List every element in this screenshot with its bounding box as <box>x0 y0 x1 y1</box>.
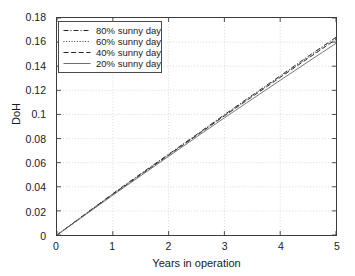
legend-item-label: 60% sunny day <box>96 36 161 47</box>
y-tick-label: 0.1 <box>0 109 51 119</box>
legend-item[interactable]: 20% sunny day <box>62 58 157 69</box>
x-tick-label: 3 <box>210 241 240 251</box>
legend-line-sample <box>62 25 92 36</box>
y-tick-label: 0.08 <box>0 134 51 144</box>
x-tick-label: 5 <box>322 241 352 251</box>
x-axis-label: Years in operation <box>56 257 337 269</box>
legend-item-label: 40% sunny day <box>96 47 161 58</box>
legend-item-label: 20% sunny day <box>96 58 161 69</box>
y-tick-label: 0.02 <box>0 207 51 217</box>
legend-item[interactable]: 60% sunny day <box>62 36 157 47</box>
y-tick-label: 0.06 <box>0 158 51 168</box>
x-tick-label: 4 <box>266 241 296 251</box>
legend-line-sample <box>62 58 92 69</box>
legend-line-sample <box>62 47 92 58</box>
y-tick-label: 0 <box>0 231 51 241</box>
legend-item-label: 80% sunny day <box>96 25 161 36</box>
y-tick-label: 0.14 <box>0 61 51 71</box>
y-tick-label: 0.16 <box>0 36 51 46</box>
legend-line-sample <box>62 36 92 47</box>
chart-figure: 00.020.040.060.080.10.120.140.160.18 012… <box>0 0 355 276</box>
y-tick-label: 0.18 <box>0 12 51 22</box>
legend-item[interactable]: 80% sunny day <box>62 25 157 36</box>
x-tick-label: 1 <box>97 241 127 251</box>
y-axis-label: DoH <box>10 84 22 144</box>
x-tick-label: 0 <box>41 241 71 251</box>
legend[interactable]: 80% sunny day60% sunny day40% sunny day2… <box>58 21 162 73</box>
legend-item[interactable]: 40% sunny day <box>62 47 157 58</box>
y-tick-label: 0.04 <box>0 182 51 192</box>
x-tick-label: 2 <box>153 241 183 251</box>
y-tick-label: 0.12 <box>0 85 51 95</box>
